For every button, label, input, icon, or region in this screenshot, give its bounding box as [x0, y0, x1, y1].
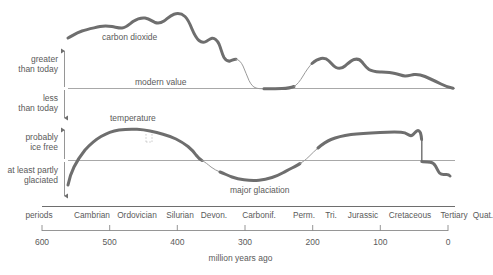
- label-probably-ice-free: probably ice free: [0, 133, 58, 152]
- xtick-200: 200: [306, 237, 320, 247]
- co2-curve-rebound: [312, 58, 453, 88]
- period-permian: Perm.: [293, 210, 315, 220]
- period-tertiary: Tertiary: [440, 210, 467, 220]
- label-modern-value: modern value: [135, 77, 187, 87]
- xtick-100: 100: [373, 237, 387, 247]
- xtick-500: 500: [103, 237, 117, 247]
- period-cambrian: Cambrian: [74, 210, 110, 220]
- temperature-label-leader: [146, 133, 152, 142]
- label-temperature: temperature: [110, 113, 156, 123]
- periods-row-label: periods: [10, 210, 68, 220]
- period-ordovician: Ordovician: [117, 210, 157, 220]
- label-greater-line2: than today: [0, 65, 58, 75]
- label-greater-than-today: greater than today: [0, 55, 58, 74]
- temperature-curve-mesozoic: [318, 131, 422, 148]
- xtick-0: 0: [446, 237, 451, 247]
- label-carbon-dioxide: carbon dioxide: [102, 32, 157, 42]
- label-glaciated-line2: glaciated: [0, 176, 58, 186]
- period-cretaceous: Cretaceous: [389, 210, 431, 220]
- co2-curve-thin-segment-2: [294, 64, 312, 87]
- temperature-curve-quaternary: [422, 162, 450, 177]
- label-icefree-line2: ice free: [0, 143, 58, 153]
- x-axis: [42, 225, 448, 231]
- period-carboniferous: Carbonif.: [242, 210, 276, 220]
- temperature-curve-thin-segment-2: [300, 148, 318, 164]
- xtick-600: 600: [35, 237, 49, 247]
- x-axis-title: million years ago: [0, 253, 481, 263]
- label-at-least-partly-glaciated: at least partly glaciated: [0, 166, 58, 185]
- label-less-than-today: less than today: [0, 94, 58, 113]
- xtick-300: 300: [238, 237, 252, 247]
- xtick-400: 400: [170, 237, 184, 247]
- period-jurassic: Jurassic: [348, 210, 378, 220]
- co2-curve-thin-segment: [236, 59, 264, 89]
- period-triassic: Tri.: [325, 210, 337, 220]
- co2-curve-right: [264, 87, 294, 89]
- period-devonian: Devon.: [201, 210, 227, 220]
- period-silurian: Silurian: [166, 210, 194, 220]
- temperature-curve-glaciation: [220, 164, 300, 181]
- label-less-line2: than today: [0, 104, 58, 114]
- temperature-curve: [68, 129, 202, 185]
- label-major-glaciation: major glaciation: [230, 185, 290, 195]
- temperature-curve-thin-segment: [202, 161, 220, 173]
- period-quaternary: Quat.: [473, 210, 493, 220]
